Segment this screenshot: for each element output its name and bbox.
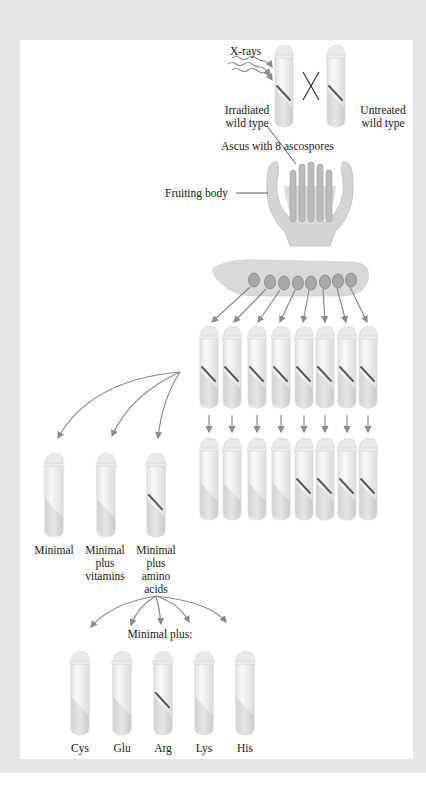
untreated-tube-icon (326, 45, 346, 127)
fruiting-body-label: Fruiting body (165, 187, 228, 200)
minimal-plus-label: Minimal plus: (110, 628, 210, 641)
irradiated-label-1: Irradiated (220, 104, 274, 117)
amino-label-cys: Cys (65, 742, 95, 755)
untreated-label-1: Untreated (355, 104, 411, 117)
amino-label-lys: Lys (189, 742, 219, 755)
media-label-vitamins-1: Minimal (80, 544, 130, 557)
irradiated-label-2: wild type (220, 117, 274, 130)
media-label-amino-4: acids (131, 583, 181, 596)
xray-waves-icon (228, 57, 272, 81)
ascus-label: Ascus with 8 ascospores (221, 140, 334, 153)
media-arrows (58, 372, 180, 438)
transfer-arrows (209, 415, 368, 432)
ascus-icon (213, 260, 369, 296)
amino-label-glu: Glu (107, 742, 137, 755)
supplement-arrows (91, 596, 226, 627)
cross-icon (303, 72, 319, 100)
media-label-minimal: Minimal (29, 544, 79, 557)
untreated-label-2: wild type (355, 117, 411, 130)
irradiated-tube-icon (274, 45, 294, 127)
amino-label-his: His (230, 742, 260, 755)
media-tubes (44, 453, 166, 537)
media-label-amino-3: amino (131, 570, 181, 583)
xrays-label: X-rays (230, 45, 261, 58)
row1-tubes (199, 326, 378, 408)
amino-tubes (70, 651, 255, 735)
amino-label-arg: Arg (148, 742, 178, 755)
media-label-amino-1: Minimal (131, 544, 181, 557)
media-label-vitamins-3: vitamins (80, 570, 130, 583)
row2-tubes (199, 438, 378, 520)
fruiting-body-icon (267, 162, 353, 246)
media-label-amino-2: plus (131, 557, 181, 570)
media-label-vitamins-2: plus (80, 557, 130, 570)
